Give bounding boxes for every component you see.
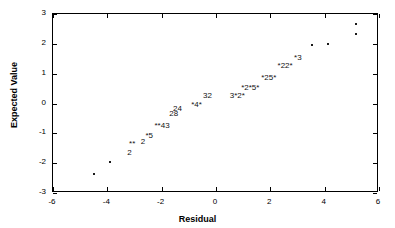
x-axis-tick-label: -4	[103, 198, 110, 206]
data-point-label: 32	[203, 92, 212, 100]
data-point	[109, 161, 111, 163]
x-axis-tick-label: 2	[267, 198, 271, 206]
y-axis-tick-label: -1	[26, 128, 46, 136]
data-point	[355, 33, 357, 35]
data-point-label: *2*5*	[241, 84, 259, 92]
y-axis-tick-label: 1	[26, 69, 46, 77]
x-axis-tick-label: -6	[48, 198, 55, 206]
y-axis-tick	[373, 133, 377, 134]
data-point	[327, 43, 329, 45]
data-point-label: *22*	[278, 62, 293, 70]
plot-area	[52, 13, 378, 192]
x-axis-tick	[325, 14, 326, 18]
data-point-label: **43	[154, 122, 169, 130]
x-axis-tick-label: 4	[321, 198, 325, 206]
y-axis-tick-label: 2	[26, 39, 46, 47]
y-axis-tick	[373, 163, 377, 164]
data-point-label: *25*	[261, 74, 276, 82]
x-axis-tick-label: 6	[376, 198, 380, 206]
x-axis-tick	[270, 187, 271, 191]
y-axis-tick	[373, 44, 377, 45]
x-axis-tick	[379, 14, 380, 18]
x-axis-tick-label: 0	[213, 198, 217, 206]
y-axis-tick	[53, 133, 57, 134]
y-axis-tick	[53, 74, 57, 75]
y-axis-tick	[373, 74, 377, 75]
x-axis-tick	[325, 187, 326, 191]
data-point	[93, 173, 95, 175]
x-axis-tick	[162, 187, 163, 191]
x-axis-title: Residual	[0, 214, 395, 224]
y-axis-tick	[53, 163, 57, 164]
y-axis-tick-label: 3	[26, 9, 46, 17]
y-axis-tick-label: -3	[26, 188, 46, 196]
y-axis-tick	[373, 193, 377, 194]
y-axis-tick	[373, 104, 377, 105]
data-point-label: 24	[173, 105, 182, 113]
x-axis-tick	[216, 14, 217, 18]
x-axis-tick	[270, 14, 271, 18]
data-point-label: 2	[127, 149, 131, 157]
x-axis-tick	[216, 187, 217, 191]
y-axis-tick	[373, 14, 377, 15]
x-axis-tick	[107, 187, 108, 191]
x-axis-tick	[379, 187, 380, 191]
y-axis-tick	[53, 44, 57, 45]
y-axis-tick	[53, 104, 57, 105]
y-axis-title: Expected Value	[9, 35, 19, 155]
data-point	[311, 44, 313, 46]
data-point-label: *3	[294, 54, 302, 62]
x-axis-tick	[107, 14, 108, 18]
data-point-label: **	[129, 140, 135, 148]
data-point-label: 3*2*	[230, 92, 245, 100]
data-point-label: *4*	[191, 101, 202, 109]
y-axis-tick	[53, 14, 57, 15]
normal-probability-plot: -6-4-20246-3-2-10123 2**2*5**432824*4*32…	[0, 0, 395, 228]
y-axis-tick-label: -2	[26, 158, 46, 166]
y-axis-tick-label: 0	[26, 99, 46, 107]
data-point	[355, 23, 357, 25]
x-axis-tick-label: -2	[157, 198, 164, 206]
data-point-label: *5	[145, 132, 153, 140]
x-axis-tick	[162, 14, 163, 18]
y-axis-tick	[53, 193, 57, 194]
x-axis-tick	[53, 187, 54, 191]
